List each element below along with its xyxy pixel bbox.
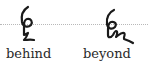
shorthand-figure: behind beyond — [0, 0, 148, 67]
shorthand-behind-icon — [16, 4, 40, 46]
label-beyond: beyond — [83, 46, 131, 62]
shorthand-beyond-icon — [102, 7, 136, 45]
label-behind: behind — [6, 46, 51, 62]
